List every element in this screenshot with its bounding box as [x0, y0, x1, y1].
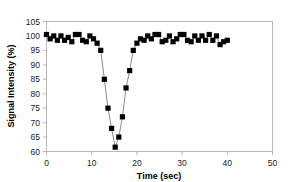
- data-point: [181, 32, 186, 37]
- x-tick-label: 20: [132, 158, 142, 168]
- y-axis-title: Signal Intensity (%): [6, 44, 16, 127]
- x-tick-label: 10: [87, 158, 97, 168]
- y-tick-label: 90: [31, 60, 41, 70]
- y-axis-ticks: [43, 22, 47, 152]
- data-point: [127, 68, 132, 73]
- data-point: [207, 32, 212, 37]
- data-point: [189, 39, 194, 44]
- data-point: [123, 85, 128, 90]
- data-point: [95, 41, 100, 46]
- data-point: [98, 48, 103, 53]
- x-axis-ticks: [47, 152, 273, 156]
- x-axis-title: Time (sec): [137, 171, 181, 181]
- y-tick-label: 100: [26, 31, 40, 41]
- data-point: [109, 126, 114, 131]
- y-tick-label: 105: [26, 17, 40, 27]
- chart-container: 105 100 95 90 85 80 75 70 65 60 0 10 20 …: [0, 0, 290, 182]
- x-tick-label: 0: [44, 158, 49, 168]
- y-tick-labels: 105 100 95 90 85 80 75 70 65 60: [26, 17, 40, 157]
- data-point: [156, 32, 161, 37]
- x-tick-labels: 0 10 20 30 40 50: [44, 158, 277, 168]
- data-point: [76, 32, 81, 37]
- data-series-line: [47, 35, 228, 148]
- data-point: [102, 77, 107, 82]
- y-tick-label: 95: [31, 45, 41, 55]
- y-tick-label: 75: [31, 103, 41, 113]
- data-point: [84, 39, 89, 44]
- data-point: [131, 48, 136, 53]
- y-tick-label: 70: [31, 118, 41, 128]
- data-point: [203, 38, 208, 43]
- data-point: [113, 145, 118, 150]
- data-point: [167, 33, 172, 38]
- data-point: [69, 39, 74, 44]
- data-point: [225, 38, 230, 43]
- data-point: [105, 106, 110, 111]
- y-tick-label: 85: [31, 74, 41, 84]
- data-series-markers: [44, 32, 230, 150]
- signal-intensity-chart: 105 100 95 90 85 80 75 70 65 60 0 10 20 …: [0, 0, 290, 182]
- data-point: [214, 33, 219, 38]
- y-tick-label: 60: [31, 147, 41, 157]
- y-tick-label: 65: [31, 132, 41, 142]
- y-tick-label: 80: [31, 89, 41, 99]
- x-tick-label: 40: [223, 158, 233, 168]
- data-point: [116, 134, 121, 139]
- x-tick-label: 30: [177, 158, 187, 168]
- data-point: [120, 114, 125, 119]
- x-tick-label: 50: [268, 158, 278, 168]
